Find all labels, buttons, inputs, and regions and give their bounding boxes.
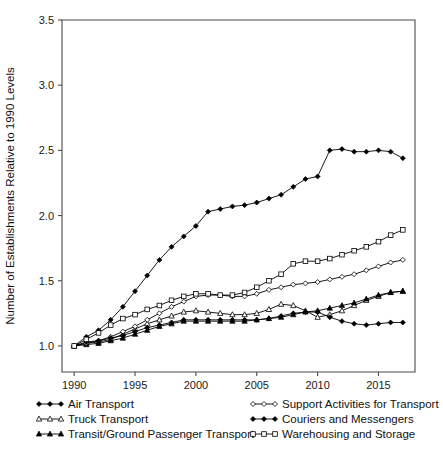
y-tick-label: 2.5: [39, 144, 54, 156]
data-point-marker: [121, 316, 126, 321]
data-point-marker: [218, 293, 223, 298]
legend-label: Air Transport: [68, 398, 135, 410]
data-point-marker: [206, 291, 211, 296]
data-point-marker: [327, 256, 332, 261]
data-point-marker: [364, 245, 369, 250]
y-tick-label: 1.5: [39, 275, 54, 287]
data-point-marker: [267, 278, 272, 283]
data-point-marker: [315, 259, 320, 264]
data-point-marker: [145, 307, 150, 312]
data-point-marker: [72, 344, 77, 349]
data-point-marker: [96, 331, 101, 336]
data-point-marker: [254, 285, 259, 290]
chart-figure: 1.01.52.02.53.03.5 199019952000200520102…: [0, 0, 443, 454]
y-tick-label: 2.0: [39, 210, 54, 222]
data-point-marker: [291, 261, 296, 266]
data-point-marker: [376, 239, 381, 244]
data-point-marker: [181, 294, 186, 299]
y-tick-label: 1.0: [39, 340, 54, 352]
data-point-marker: [251, 432, 256, 437]
data-point-marker: [279, 272, 284, 277]
y-axis-title: Number of Establishments Relative to 199…: [4, 67, 16, 325]
legend-label: Transit/Ground Passenger Transport: [68, 428, 255, 440]
data-point-marker: [169, 298, 174, 303]
data-point-marker: [133, 312, 138, 317]
y-tick-label: 3.5: [39, 14, 54, 26]
data-point-marker: [230, 293, 235, 298]
data-point-marker: [242, 290, 247, 295]
x-tick-label: 1990: [62, 379, 86, 391]
x-tick-label: 2005: [245, 379, 269, 391]
data-point-marker: [303, 259, 308, 264]
data-point-marker: [108, 323, 113, 328]
x-tick-label: 2000: [184, 379, 208, 391]
data-point-marker: [194, 291, 199, 296]
data-point-marker: [262, 432, 267, 437]
data-point-marker: [157, 303, 162, 308]
x-tick-label: 2010: [305, 379, 329, 391]
data-point-marker: [388, 233, 393, 238]
data-point-marker: [84, 337, 89, 342]
data-point-marker: [352, 248, 357, 253]
data-point-marker: [273, 432, 278, 437]
legend-label: Couriers and Messengers: [282, 413, 414, 425]
y-tick-label: 3.0: [39, 79, 54, 91]
x-tick-label: 2015: [366, 379, 390, 391]
data-point-marker: [401, 228, 406, 233]
x-tick-label: 1995: [123, 379, 147, 391]
legend-item-transit-ground-passenger-transport[interactable]: Transit/Ground Passenger Transport: [36, 428, 255, 440]
legend-label: Support Activities for Transport: [282, 398, 439, 410]
legend-label: Warehousing and Storage: [282, 428, 415, 440]
legend-label: Truck Transport: [68, 413, 149, 425]
line-chart: 1.01.52.02.53.03.5 199019952000200520102…: [0, 0, 443, 454]
data-point-marker: [340, 252, 345, 257]
